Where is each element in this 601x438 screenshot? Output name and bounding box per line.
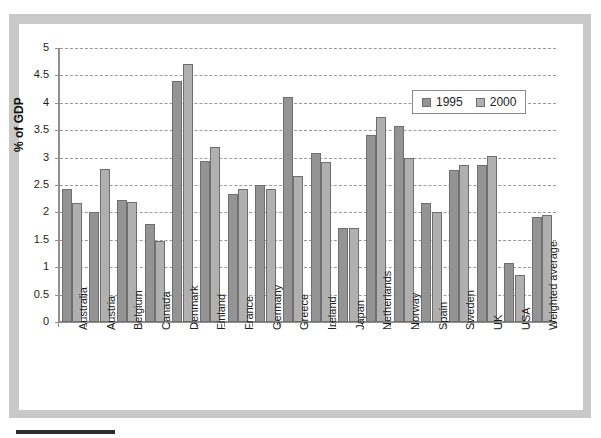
y-axis-tick-label: 2 xyxy=(5,205,49,217)
x-axis-label-uk: UK xyxy=(492,315,504,330)
x-axis-label-canada: Canada xyxy=(160,291,172,330)
x-axis-label-ireland: Ireland xyxy=(326,296,338,330)
bar-1995-australia xyxy=(62,189,72,322)
x-axis-label-sweden: Sweden xyxy=(464,290,476,330)
bar-1995-denmark xyxy=(172,81,182,322)
bar-1995-canada xyxy=(145,224,155,322)
y-axis-tick-label: 0 xyxy=(5,315,49,327)
legend-item-2000: 2000 xyxy=(476,95,517,109)
bar-1995-belgium xyxy=(117,200,127,322)
y-axis-tick-label: 3.5 xyxy=(5,123,49,135)
x-axis-label-japan: Japan xyxy=(354,300,366,330)
bar-1995-netherlands xyxy=(366,135,376,322)
x-axis-label-austria: Austria xyxy=(105,296,117,330)
chart-legend: 1995 2000 xyxy=(412,90,526,114)
legend-item-1995: 1995 xyxy=(422,95,463,109)
x-axis-label-greece: Greece xyxy=(298,294,310,330)
bar-1995-norway xyxy=(394,126,404,322)
legend-swatch-icon-2000 xyxy=(476,98,485,107)
bar-1995-greece xyxy=(283,97,293,322)
x-axis-label-norway: Norway xyxy=(409,293,421,330)
y-axis-tick-label: 5 xyxy=(5,41,49,53)
x-axis-label-denmark: Denmark xyxy=(188,285,200,330)
x-axis-label-weighted-average: Weighted average xyxy=(547,241,559,330)
x-axis-label-germany: Germany xyxy=(271,285,283,330)
y-axis-tick-label: 2.5 xyxy=(5,178,49,190)
bar-1995-uk xyxy=(477,165,487,322)
x-axis-tick xyxy=(58,322,59,327)
legend-label-2000: 2000 xyxy=(490,95,517,109)
x-axis-label-france: France xyxy=(243,296,255,330)
y-axis-tick-label: 3 xyxy=(5,151,49,163)
y-axis-tick-label: 0.5 xyxy=(5,288,49,300)
bar-1995-france xyxy=(228,194,238,322)
bar-1995-germany xyxy=(255,185,265,322)
x-axis-label-belgium: Belgium xyxy=(132,290,144,330)
figure-root: % of GDP 00.511.522.533.544.55 Australia… xyxy=(0,0,601,438)
y-axis-tick-label: 1.5 xyxy=(5,233,49,245)
bar-2000-uk xyxy=(487,156,497,322)
legend-swatch-icon-1995 xyxy=(422,98,431,107)
x-axis-label-finland: Finland xyxy=(215,294,227,330)
y-axis-tick-label: 4 xyxy=(5,96,49,108)
bar-1995-ireland xyxy=(311,153,321,322)
legend-label-1995: 1995 xyxy=(436,95,463,109)
x-axis-label-spain: Spain xyxy=(437,302,449,330)
bar-1995-austria xyxy=(89,212,99,322)
bar-1995-japan xyxy=(338,228,348,322)
y-axis-tick-label: 1 xyxy=(5,260,49,272)
bar-1995-usa xyxy=(504,263,514,322)
bar-1995-sweden xyxy=(449,170,459,322)
y-axis-tick-label: 4.5 xyxy=(5,68,49,80)
bar-2000-denmark xyxy=(183,64,193,322)
bar-chart: % of GDP 00.511.522.533.544.55 Australia… xyxy=(0,0,601,438)
bar-1995-spain xyxy=(421,203,431,322)
bottom-rule xyxy=(16,430,115,434)
x-axis-label-netherlands: Netherlands xyxy=(381,271,393,330)
bar-1995-weighted-average xyxy=(532,217,542,322)
x-axis-label-usa: USA xyxy=(520,307,532,330)
x-axis-label-australia: Australia xyxy=(77,287,89,330)
bar-1995-finland xyxy=(200,161,210,322)
